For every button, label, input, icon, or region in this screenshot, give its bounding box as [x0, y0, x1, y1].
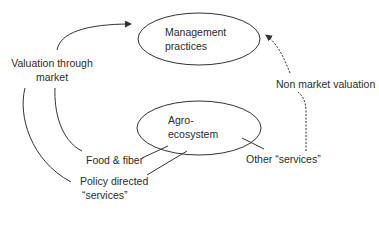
management-practices-label: Management practices	[165, 25, 226, 53]
agro-line1: Agro-	[168, 113, 218, 127]
policy-directed-services-label: Policy directed “services”	[80, 174, 148, 202]
policy-to-valuation-line	[23, 88, 71, 182]
non-market-to-management-dashed-arrow	[266, 35, 290, 73]
management-line2: practices	[165, 39, 226, 53]
management-line1: Management	[165, 25, 226, 39]
valuation-line1: Valuation through	[5, 56, 99, 70]
other-services-label: Other “services”	[246, 152, 321, 166]
policy-line2: “services”	[82, 188, 148, 202]
agro-ecosystem-label: Agro- ecosystem	[168, 113, 218, 141]
agro-to-other-services-line	[242, 138, 264, 149]
valuation-line2: market	[5, 70, 99, 84]
agro-to-policy-line	[147, 151, 187, 175]
non-market-valuation-label: Non market valuation	[276, 77, 375, 91]
food-fiber-to-market-line	[55, 88, 82, 151]
policy-line1: Policy directed	[80, 174, 148, 188]
food-fiber-label: Food & fiber	[86, 153, 143, 167]
valuation-to-management-arrow	[57, 24, 131, 50]
agro-to-food-fiber-line	[142, 146, 168, 158]
valuation-through-market-label: Valuation through market	[5, 56, 99, 84]
other-services-to-non-market-dashed-line	[298, 92, 306, 151]
agro-line2: ecosystem	[168, 127, 218, 141]
